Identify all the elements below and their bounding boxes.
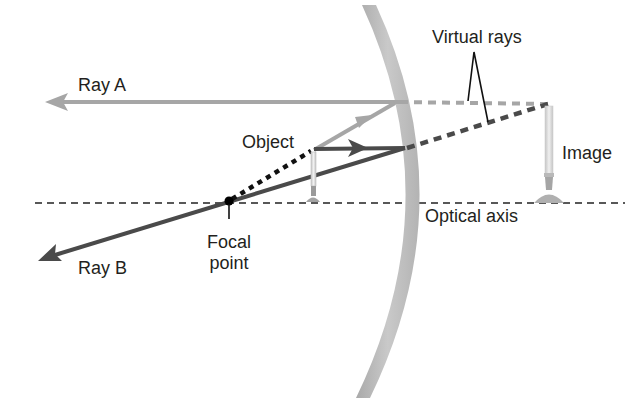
ray-a-label: Ray A bbox=[78, 75, 126, 96]
focal-point-label-line2: point bbox=[199, 253, 259, 274]
image-candle bbox=[534, 106, 564, 203]
virtual-rays-pointer bbox=[468, 52, 488, 122]
ray-b-label: Ray B bbox=[78, 258, 127, 279]
optical-axis-label: Optical axis bbox=[425, 206, 518, 227]
focal-to-object-dotted bbox=[232, 151, 311, 199]
virtual-rays bbox=[400, 102, 548, 148]
focal-point-marker bbox=[225, 197, 234, 220]
image-label: Image bbox=[562, 143, 612, 164]
virtual-rays-label: Virtual rays bbox=[432, 27, 522, 48]
convex-mirror bbox=[356, 5, 420, 398]
focal-point-label: Focal point bbox=[199, 232, 259, 274]
ray-diagram bbox=[0, 0, 635, 410]
focal-point-label-line1: Focal bbox=[199, 232, 259, 253]
object-label: Object bbox=[242, 132, 294, 153]
